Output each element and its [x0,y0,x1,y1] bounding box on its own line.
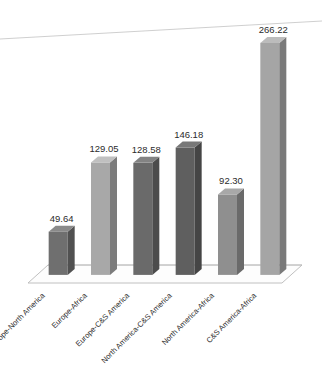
bar-front-face [133,163,152,275]
bar-front-face [176,148,195,275]
bar-chart-figure: 49.64129.05128.58146.1892.30266.22 Europ… [0,0,322,379]
bar-value-label: 92.30 [219,175,243,186]
bar-value-label: 49.64 [50,213,74,224]
bar-column [176,142,202,275]
bar-column [133,157,159,275]
bar-column [91,156,117,274]
bar-value-label: 128.58 [132,144,161,155]
bar-front-face [49,232,68,275]
bar-column [260,37,286,275]
bar-front-face [91,162,110,274]
bar-value-label: 146.18 [174,129,203,140]
bar-value-label: 129.05 [89,143,118,154]
bar-side-face [237,188,244,274]
bar-value-label: 266.22 [259,24,288,35]
bar-column [218,188,244,274]
bar-side-face [195,142,202,275]
bar-side-face [110,156,117,274]
bar-column [49,226,75,275]
bar-front-face [218,194,237,274]
bar-side-face [68,226,75,275]
chart-canvas: 49.64129.05128.58146.1892.30266.22 Europ… [0,0,322,379]
bar-front-face [260,43,279,275]
bar-side-face [152,157,159,275]
bar-side-face [279,37,286,275]
